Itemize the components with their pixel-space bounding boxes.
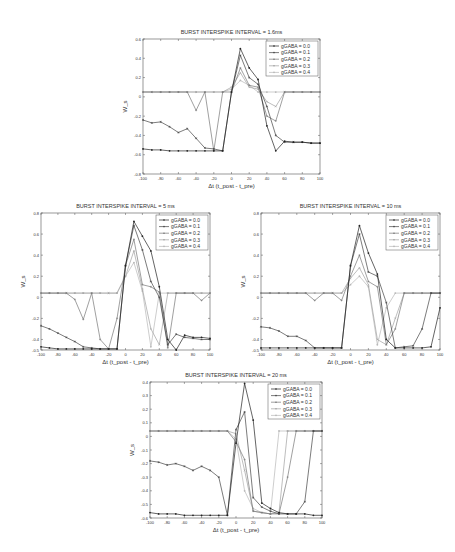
series-line	[261, 276, 440, 345]
y-tick-label: 0	[257, 295, 260, 300]
x-tick-label: 40	[265, 176, 270, 181]
legend-item: gGABA = 0.0	[401, 217, 430, 223]
x-tick-label: -100	[257, 352, 266, 357]
legend-item: gGABA = 0.1	[401, 223, 430, 229]
x-tick-label: 60	[174, 352, 179, 357]
y-tick-label: 0.2	[253, 274, 259, 279]
x-tick-label: -80	[55, 352, 62, 357]
legend-item: gGABA = 0.0	[283, 386, 312, 392]
x-tick-label: 20	[247, 176, 252, 181]
y-tick-label: 0.4	[33, 253, 39, 258]
x-tick-label: -20	[211, 176, 218, 181]
y-tick-label: -0.4	[252, 337, 260, 342]
y-tick-label: 0.6	[253, 232, 259, 237]
x-tick-label: 40	[384, 352, 389, 357]
y-tick-label: 0.3	[142, 393, 148, 398]
legend-item: gGABA = 0.1	[281, 49, 310, 55]
x-tick-label: 0	[235, 520, 238, 525]
legend-item: gGABA = 0.1	[171, 223, 200, 229]
legend-item: gGABA = 0.3	[281, 63, 310, 69]
x-tick-label: -80	[276, 352, 283, 357]
x-tick-label: -100	[139, 176, 148, 181]
x-tick-label: 60	[285, 520, 290, 525]
x-tick-label: -60	[72, 352, 79, 357]
x-axis-label: Δt (t_post - t_pre)	[213, 527, 260, 533]
y-tick-label: -0.5	[32, 348, 40, 353]
chart-isi-10: BURST INTERSPIKE INTERVAL = 10 ms-100-80…	[240, 203, 444, 365]
chart-title: BURST INTERSPIKE INTERVAL = 1.6ms	[181, 29, 283, 35]
x-tick-label: 0	[349, 352, 352, 357]
x-axis-label: Δt (t_post - t_pre)	[327, 359, 374, 365]
chart-title: BURST INTERSPIKE INTERVAL = 20 ms	[185, 372, 287, 378]
x-tick-label: -20	[330, 352, 337, 357]
x-tick-label: 0	[230, 176, 233, 181]
x-tick-label: -100	[37, 352, 46, 357]
series-line	[143, 68, 320, 151]
x-tick-label: 20	[366, 352, 371, 357]
y-tick-label: 0	[139, 94, 142, 99]
x-tick-label: 100	[319, 520, 326, 525]
legend-item: gGABA = 0.2	[171, 230, 200, 236]
x-tick-label: -20	[106, 352, 113, 357]
x-tick-label: 80	[191, 352, 196, 357]
y-tick-label: -0.1	[141, 448, 149, 453]
x-tick-label: 80	[300, 176, 305, 181]
y-tick-label: -0.2	[252, 316, 260, 321]
y-tick-label: 0.4	[135, 56, 141, 61]
y-tick-label: -0.8	[134, 172, 142, 177]
y-tick-label: 0.8	[33, 211, 39, 216]
y-tick-label: -0.4	[134, 133, 142, 138]
chart-title: BURST INTERSPIKE INTERVAL = 5 ms	[76, 203, 175, 209]
series-line	[261, 268, 440, 345]
legend-item: gGABA = 0.4	[401, 243, 430, 249]
y-tick-label: 0.2	[33, 274, 39, 279]
x-tick-label: -40	[312, 352, 319, 357]
y-axis-label: W_s	[20, 276, 26, 288]
y-tick-label: -0.5	[141, 502, 149, 507]
x-tick-label: 60	[282, 176, 287, 181]
legend-item: gGABA = 0.4	[281, 69, 310, 75]
x-tick-label: -60	[182, 520, 189, 525]
legend-item: gGABA = 0.3	[283, 406, 312, 412]
x-tick-label: 100	[317, 176, 324, 181]
x-tick-label: 80	[303, 520, 308, 525]
x-tick-label: -40	[199, 520, 206, 525]
legend-item: gGABA = 0.3	[171, 237, 200, 243]
x-tick-label: 100	[437, 352, 444, 357]
y-tick-label: -0.4	[32, 337, 40, 342]
y-tick-label: -0.6	[141, 516, 149, 521]
legend-item: gGABA = 0.1	[283, 392, 312, 398]
legend-item: gGABA = 0.2	[283, 399, 312, 405]
series-line	[41, 239, 210, 349]
x-tick-label: 40	[157, 352, 162, 357]
y-axis-label: W_s	[240, 276, 246, 288]
legend-item: gGABA = 0.0	[171, 217, 200, 223]
y-tick-label: -0.5	[252, 348, 260, 353]
y-tick-label: 0.2	[135, 75, 141, 80]
series-line	[261, 234, 440, 348]
legend-item: gGABA = 0.0	[281, 43, 310, 49]
legend-item: gGABA = 0.2	[281, 56, 310, 62]
chart-isi-20: BURST INTERSPIKE INTERVAL = 20 ms-100-80…	[129, 372, 326, 533]
legend-item: gGABA = 0.4	[283, 412, 312, 418]
chart-isi-5: BURST INTERSPIKE INTERVAL = 5 ms-100-80-…	[20, 203, 214, 365]
y-tick-label: 0.8	[253, 211, 259, 216]
x-tick-label: -100	[146, 520, 155, 525]
x-tick-label: 0	[124, 352, 127, 357]
x-tick-label: 100	[207, 352, 214, 357]
y-tick-label: 0.4	[253, 253, 259, 258]
y-tick-label: 0.6	[33, 232, 39, 237]
legend-item: gGABA = 0.2	[401, 230, 430, 236]
y-tick-label: -0.2	[32, 316, 40, 321]
y-tick-label: -0.2	[134, 114, 142, 119]
x-tick-label: -60	[176, 176, 183, 181]
y-tick-label: 0.1	[142, 420, 148, 425]
x-tick-label: -80	[164, 520, 171, 525]
y-axis-label: W_s	[122, 101, 128, 113]
y-tick-label: -0.2	[141, 461, 149, 466]
legend-item: gGABA = 0.4	[171, 243, 200, 249]
x-tick-label: 80	[420, 352, 425, 357]
x-tick-label: 40	[268, 520, 273, 525]
x-tick-label: -40	[193, 176, 200, 181]
y-tick-label: -0.3	[141, 475, 149, 480]
